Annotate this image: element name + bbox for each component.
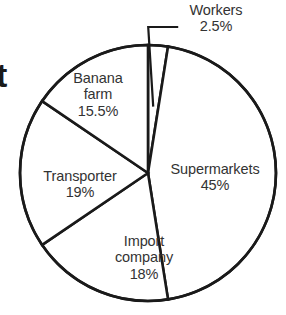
slice-label-banana-farm-name-line2: farm [56,86,140,102]
pie-chart: Supermarkets 45% Import company 18% Tran… [0,0,286,315]
slice-label-workers: Workers 2.5% [160,2,272,35]
slice-label-supermarkets-value: 45% [152,177,278,193]
slice-label-transporter-name: Transporter [22,168,138,184]
slice-label-import-company-name-line1: Import [90,233,198,249]
slice-label-supermarkets-name: Supermarkets [152,161,278,177]
slice-label-supermarkets: Supermarkets 45% [152,161,278,194]
slice-label-transporter: Transporter 19% [22,168,138,201]
cropped-edge-text: t [0,58,7,92]
slice-label-banana-farm-value: 15.5% [56,103,140,119]
slice-label-import-company: Import company 18% [90,233,198,282]
slice-label-workers-value: 2.5% [160,18,272,34]
slice-label-import-company-name-line2: company [90,249,198,265]
slice-label-banana-farm: Banana farm 15.5% [56,70,140,119]
slice-label-workers-name: Workers [160,2,272,18]
slice-label-import-company-value: 18% [90,266,198,282]
slice-label-banana-farm-name-line1: Banana [56,70,140,86]
slice-label-transporter-value: 19% [22,184,138,200]
